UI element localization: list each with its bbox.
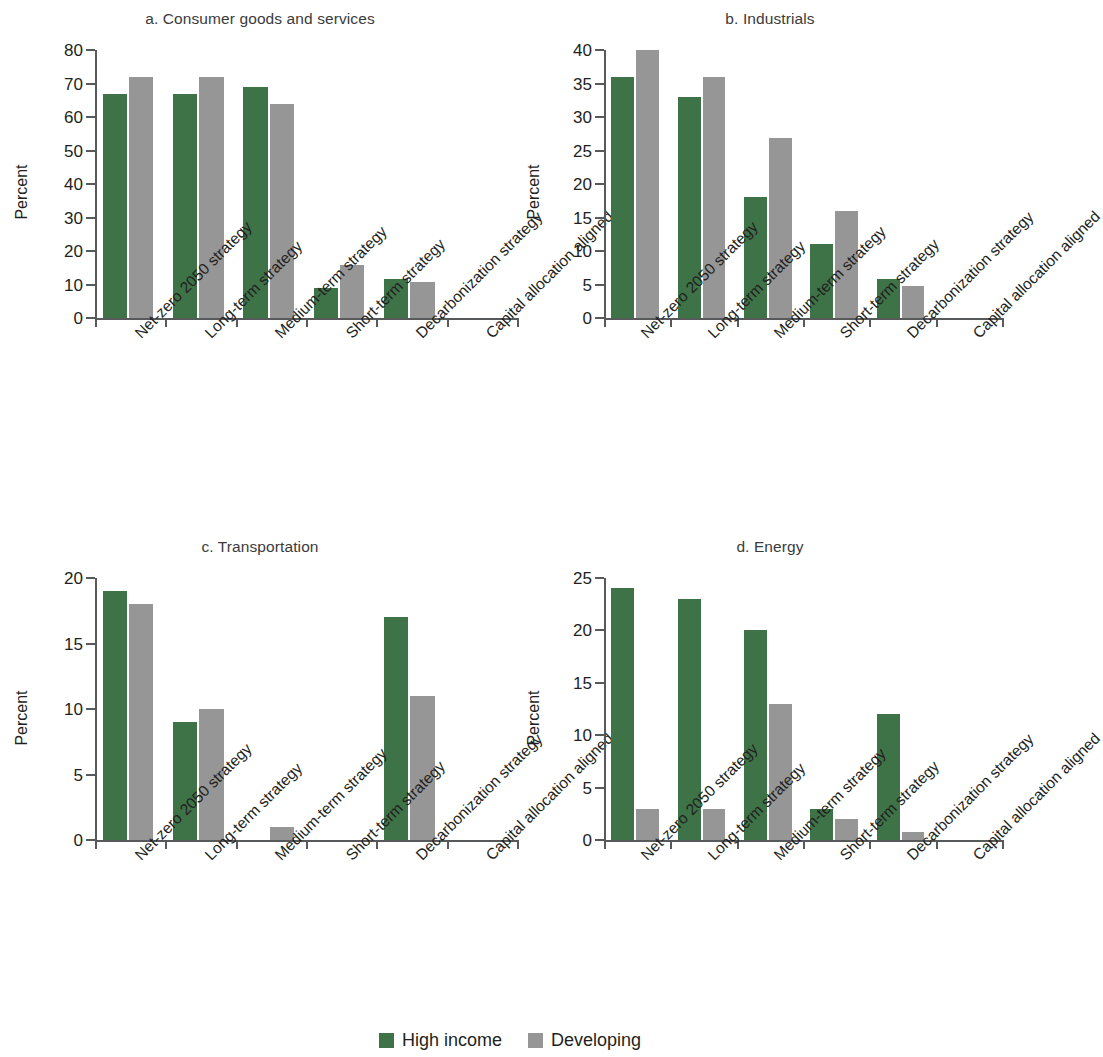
panel-b-y-tick-label-0: 0	[583, 310, 592, 327]
bar-a-1-developing	[199, 77, 223, 318]
panel-b-y-tick-label-3: 15	[573, 209, 592, 226]
panel-b-x-tick	[604, 318, 606, 327]
panel-b-y-tick	[595, 116, 604, 118]
legend-swatch-high-income-icon	[379, 1033, 394, 1048]
bar-b-0-developing	[636, 50, 659, 318]
panel-a-plot-area: 01020304050607080	[95, 50, 519, 318]
panel-a-y-tick	[86, 49, 95, 51]
panel-b-title: b. Industrials	[520, 10, 1020, 28]
panel-c-y-tick	[86, 708, 95, 710]
panel-a-y-tick	[86, 83, 95, 85]
bar-b-0-high-income	[611, 77, 634, 318]
panel-c-y-tick-label-1: 5	[74, 766, 83, 783]
panel-a-x-tick	[306, 318, 308, 327]
panel-a-y-tick	[86, 183, 95, 185]
panel-b-bars	[606, 50, 1004, 318]
panel-a-title: a. Consumer goods and services	[0, 10, 520, 28]
panel-b-y-tick-label-7: 35	[573, 75, 592, 92]
panel-c-x-tick	[165, 840, 167, 849]
panel-a-consumer-goods-and-services: a. Consumer goods and services Percent 0…	[0, 0, 520, 500]
panel-b-y-tick	[595, 150, 604, 152]
panel-b-y-tick-label-5: 25	[573, 142, 592, 159]
bar-c-0-developing	[129, 604, 153, 840]
panel-d-y-tick	[595, 787, 604, 789]
panel-a-y-axis-label: Percent	[14, 162, 30, 222]
bar-a-0-high-income	[103, 94, 127, 318]
panel-b-industrials: b. Industrials Percent 0510152025303540 …	[520, 0, 1020, 500]
panel-b-y-tick	[595, 49, 604, 51]
panel-a-y-tick	[86, 250, 95, 252]
panel-a-y-tick-label-3: 30	[64, 209, 83, 226]
panel-c-x-tick	[517, 840, 519, 849]
panel-c-x-tick	[236, 840, 238, 849]
panel-b-y-tick-label-1: 5	[583, 276, 592, 293]
panel-b-y-axis-label: Percent	[526, 162, 542, 222]
panel-a-x-tick	[376, 318, 378, 327]
panel-b-y-tick-label-2: 10	[573, 243, 592, 260]
panel-d-y-tick	[595, 734, 604, 736]
bar-b-2-developing	[769, 138, 792, 318]
panel-a-x-tick	[447, 318, 449, 327]
panel-d-x-tick	[604, 840, 606, 849]
panel-c-y-tick	[86, 577, 95, 579]
panel-d-plot-area: 0510152025	[604, 578, 1004, 840]
bar-d-0-high-income	[611, 588, 634, 840]
panel-a-x-tick	[517, 318, 519, 327]
panel-a-y-tick	[86, 116, 95, 118]
panel-c-y-tick-label-0: 0	[74, 832, 83, 849]
legend-item-high-income: High income	[379, 1031, 502, 1049]
panel-d-y-tick	[595, 839, 604, 841]
panel-a-y-tick-label-2: 20	[64, 243, 83, 260]
panel-d-energy: d. Energy Percent 0510152025 Net-zero 20…	[520, 520, 1020, 1020]
panel-b-y-tick	[595, 183, 604, 185]
legend-swatch-developing-icon	[528, 1033, 543, 1048]
panel-d-y-tick-label-4: 20	[573, 622, 592, 639]
panel-a-x-tick	[95, 318, 97, 327]
panel-b-plot-area: 0510152025303540	[604, 50, 1004, 318]
panel-c-title: c. Transportation	[0, 538, 520, 556]
panel-d-y-tick-label-2: 10	[573, 727, 592, 744]
panel-c-y-tick	[86, 643, 95, 645]
panel-d-y-tick	[595, 577, 604, 579]
panel-b-y-tick-label-6: 30	[573, 109, 592, 126]
panel-c-plot-area: 05101520	[95, 578, 519, 840]
panel-a-y-tick-label-4: 40	[64, 176, 83, 193]
panel-b-y-tick	[595, 317, 604, 319]
panel-a-y-tick-label-7: 70	[64, 75, 83, 92]
panel-b-y-tick-label-8: 40	[573, 42, 592, 59]
panel-a-y-tick	[86, 150, 95, 152]
legend-label-high-income: High income	[402, 1031, 502, 1049]
panel-a-y-tick	[86, 217, 95, 219]
panel-d-title: d. Energy	[520, 538, 1020, 556]
panel-d-bars	[606, 578, 1004, 840]
panel-c-transportation: c. Transportation Percent 05101520 Net-z…	[0, 520, 520, 1020]
panel-c-x-tick	[95, 840, 97, 849]
bar-a-0-developing	[129, 77, 153, 318]
legend-label-developing: Developing	[551, 1031, 641, 1049]
panel-c-y-tick-label-4: 20	[64, 570, 83, 587]
panel-a-y-tick	[86, 284, 95, 286]
panel-a-y-tick-label-8: 80	[64, 42, 83, 59]
panel-b-y-tick	[595, 250, 604, 252]
panel-a-x-tick	[165, 318, 167, 327]
panel-d-y-tick	[595, 629, 604, 631]
panel-d-y-tick-label-0: 0	[583, 832, 592, 849]
panel-d-y-tick-label-5: 25	[573, 570, 592, 587]
bar-c-0-high-income	[103, 591, 127, 840]
panel-c-y-tick-label-3: 15	[64, 635, 83, 652]
panel-a-y-tick-label-6: 60	[64, 109, 83, 126]
panel-d-y-tick	[595, 682, 604, 684]
legend: High income Developing	[0, 1031, 1020, 1049]
panel-c-y-tick	[86, 774, 95, 776]
panel-c-y-axis-label: Percent	[14, 688, 30, 748]
panel-c-y-tick-label-2: 10	[64, 701, 83, 718]
bar-a-2-developing	[270, 104, 294, 318]
panel-c-bars	[97, 578, 519, 840]
panel-a-y-tick-label-0: 0	[74, 310, 83, 327]
panel-a-x-tick	[236, 318, 238, 327]
panel-c-x-tick	[306, 840, 308, 849]
panel-b-y-tick-label-4: 20	[573, 176, 592, 193]
panel-c-x-tick	[447, 840, 449, 849]
panel-a-y-tick-label-5: 50	[64, 142, 83, 159]
